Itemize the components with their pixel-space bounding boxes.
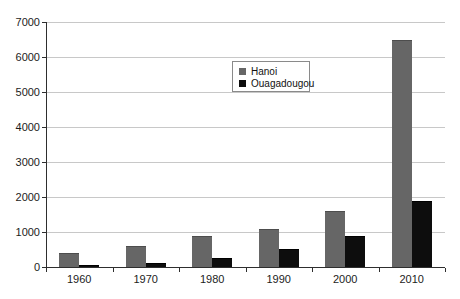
bar-hanoi-2000 [325, 211, 345, 267]
x-axis-tick [46, 268, 47, 272]
x-axis-label-1970: 1970 [113, 273, 179, 285]
x-axis-tick [113, 268, 114, 272]
y-axis-tick [42, 57, 46, 58]
y-axis-tick [42, 127, 46, 128]
x-axis-tick [246, 268, 247, 272]
x-axis-tick [179, 268, 180, 272]
gridline [46, 22, 445, 23]
x-axis-tick [379, 268, 380, 272]
y-axis-tick-label: 0 [2, 261, 40, 273]
y-axis-tick-label: 6000 [2, 51, 40, 63]
bar-ouagadougou-2010 [412, 201, 432, 268]
category-group-2010 [379, 40, 446, 268]
x-axis-label-1990: 1990 [246, 273, 312, 285]
x-axis-label-1980: 1980 [179, 273, 245, 285]
legend-label-ouagadougou: Ouagadougou [251, 78, 314, 89]
category-group-2000 [312, 211, 379, 267]
category-group-1960 [46, 253, 113, 267]
bar-hanoi-1960 [59, 253, 79, 267]
bar-chart: HanoiOuagadougou 01000200030004000500060… [0, 0, 460, 299]
legend-item-ouagadougou: Ouagadougou [239, 77, 303, 89]
y-axis-line [46, 22, 47, 267]
bar-ouagadougou-1990 [279, 249, 299, 267]
x-axis-label-2010: 2010 [379, 273, 445, 285]
y-axis-tick [42, 197, 46, 198]
bar-hanoi-1990 [259, 229, 279, 268]
category-group-1980 [179, 236, 246, 268]
y-axis-tick [42, 162, 46, 163]
x-axis-label-1960: 1960 [46, 273, 112, 285]
y-axis-tick-label: 4000 [2, 121, 40, 133]
y-axis-tick [42, 232, 46, 233]
category-group-1990 [246, 229, 313, 268]
bar-hanoi-2010 [392, 40, 412, 268]
legend: HanoiOuagadougou [232, 61, 310, 92]
y-axis-tick [42, 22, 46, 23]
legend-swatch-ouagadougou [239, 80, 246, 87]
bar-ouagadougou-1980 [212, 258, 232, 267]
bar-hanoi-1970 [126, 246, 146, 267]
bar-ouagadougou-2000 [345, 236, 365, 268]
y-axis-tick-label: 1000 [2, 226, 40, 238]
legend-item-hanoi: Hanoi [239, 65, 303, 77]
y-axis-tick-label: 5000 [2, 86, 40, 98]
plot-area [46, 22, 445, 267]
x-axis-label-2000: 2000 [312, 273, 378, 285]
x-axis-tick [312, 268, 313, 272]
x-axis-tick [445, 268, 446, 272]
legend-swatch-hanoi [239, 68, 246, 75]
bar-hanoi-1980 [192, 236, 212, 268]
category-group-1970 [113, 246, 180, 267]
legend-label-hanoi: Hanoi [251, 66, 277, 77]
y-axis-tick [42, 92, 46, 93]
y-axis-tick-label: 3000 [2, 156, 40, 168]
y-axis-tick-label: 7000 [2, 16, 40, 28]
y-axis-tick-label: 2000 [2, 191, 40, 203]
